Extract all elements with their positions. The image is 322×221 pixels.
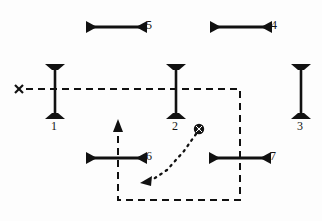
dotted-trajectory-arrowhead [140,176,152,186]
dotted-trajectory-line [152,134,196,180]
diagram-canvas: 5 4 1 2 3 6 7 [0,0,322,221]
dashed-route-line [26,89,240,200]
bar-5 [86,21,147,33]
bar-3-cap-top [291,64,311,70]
bar-4-cap-left [210,21,221,33]
bar-3 [291,64,311,119]
bar-label-2: 2 [172,120,178,132]
ball-marker-center [198,128,201,131]
bar-1-cap-top [45,64,65,70]
bar-2 [166,64,186,119]
bar-4 [210,21,272,33]
bar-6 [86,152,147,164]
bar-7-cap-left [209,152,220,164]
bar-label-6: 6 [146,150,152,162]
bar-2-cap-top [166,64,186,70]
bar-5-cap-left [86,21,97,33]
bar-label-4: 4 [271,19,277,31]
bar-6-cap-left [86,152,97,164]
bar-1 [45,64,65,119]
ball-marker [194,124,204,134]
bar-label-5: 5 [146,19,152,31]
dashed-route-arrowhead-up [113,119,123,132]
bar-label-3: 3 [297,120,303,132]
x-start-marker [15,85,23,93]
diagram-artwork [0,0,322,221]
bar-label-1: 1 [51,120,57,132]
bar-label-7: 7 [270,150,276,162]
dashed-route [26,89,240,200]
